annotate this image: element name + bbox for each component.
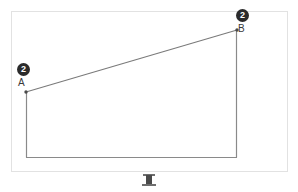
diagram-canvas: 2 A 2 B [0, 0, 298, 192]
point-label-b: B [238, 24, 245, 34]
point-label-a: A [18, 78, 25, 88]
marker-badge-a[interactable]: 2 [17, 63, 30, 76]
geometry-drawing [0, 0, 298, 192]
marker-badge-b[interactable]: 2 [236, 9, 249, 22]
ibeam-cap-bottom [142, 184, 156, 186]
point-dot-a[interactable] [24, 90, 27, 93]
diagonal-segment-ab [26, 30, 237, 92]
ibeam-glyph[interactable] [142, 174, 156, 188]
